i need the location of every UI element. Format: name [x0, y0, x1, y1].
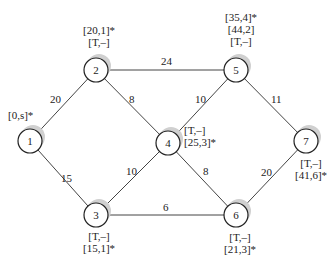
node-6-id: 6 [233, 209, 239, 221]
node-1-label: [0,s]* [8, 109, 33, 121]
weight-3-4: 10 [126, 165, 137, 177]
node-3-label: [T,–] [15,1]* [83, 230, 115, 254]
node-4-label: [T,–] [25,3]* [184, 124, 216, 148]
network-graph: 1 2 3 4 5 6 7 [0, 0, 336, 272]
node-1-id: 1 [27, 135, 33, 147]
weight-4-6: 8 [203, 165, 209, 177]
node-7-id: 7 [303, 135, 309, 147]
node-4-id: 4 [165, 137, 171, 149]
node-3-id: 3 [93, 209, 99, 221]
weight-1-2: 20 [50, 93, 61, 105]
edge-4-6 [168, 143, 236, 215]
weight-3-6: 6 [163, 201, 169, 213]
node-5-label: [35,4]* [44,2] [T,–] [225, 11, 257, 47]
edge-5-7 [236, 70, 306, 141]
weight-6-7: 20 [261, 166, 272, 178]
edge-2-4 [96, 70, 168, 143]
weight-1-3: 15 [61, 172, 72, 184]
node-2-id: 2 [93, 64, 99, 76]
weight-4-5: 10 [195, 93, 206, 105]
weight-2-5: 24 [161, 55, 172, 67]
weight-2-4: 8 [129, 93, 135, 105]
node-5-id: 5 [233, 64, 239, 76]
node-7-label: [T,–] [41,6]* [295, 157, 327, 181]
weight-5-7: 11 [271, 93, 282, 105]
node-2-label: [20,1]* [T,–] [83, 24, 115, 48]
node-6-label: [T,–] [21,3]* [224, 231, 256, 255]
